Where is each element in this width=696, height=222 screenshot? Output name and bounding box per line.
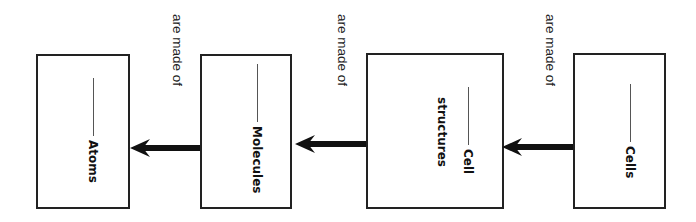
arrow-cell-structures-to-molecules: [293, 134, 368, 154]
blank-line[interactable]: [93, 78, 94, 136]
label-structures: structures: [435, 97, 449, 167]
blank-line[interactable]: [468, 87, 469, 145]
entry-cell-structures: Cell structures: [429, 87, 481, 174]
entry-molecules: Molecules: [244, 64, 270, 194]
blank-line[interactable]: [257, 64, 258, 122]
label-cells: Cells: [623, 146, 637, 178]
label-molecules: Molecules: [250, 126, 264, 194]
relation-label-3: are made of: [543, 14, 558, 86]
label-cell: Cell: [461, 149, 475, 174]
label-atoms: Atoms: [86, 140, 100, 183]
relation-label-2: are made of: [335, 14, 350, 86]
entry-cells: Cells: [617, 84, 643, 178]
entry-atoms: Atoms: [80, 78, 106, 183]
arrow-molecules-to-atoms: [128, 138, 202, 158]
arrow-cells-to-cell-structures: [500, 137, 575, 157]
relation-label-1: are made of: [170, 14, 185, 86]
blank-line[interactable]: [630, 84, 631, 142]
